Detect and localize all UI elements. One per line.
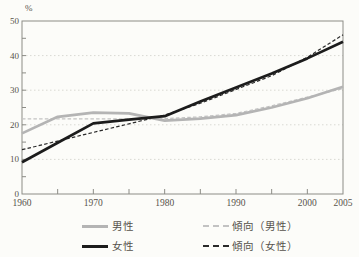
chart-legend-row-1: 男性 傾向（男性）	[0, 219, 359, 234]
chart-legend-row-2: 女性 傾向（女性）	[0, 239, 359, 254]
svg-text:30: 30	[10, 85, 20, 95]
legend-label-female: 女性	[112, 239, 134, 254]
svg-text:%: %	[25, 3, 33, 13]
svg-text:1970: 1970	[84, 198, 103, 208]
svg-text:20: 20	[10, 120, 20, 130]
svg-text:50: 50	[10, 16, 20, 26]
legend-label-trend-male: 傾向（男性）	[232, 219, 298, 234]
svg-text:1980: 1980	[155, 198, 174, 208]
svg-text:2005: 2005	[334, 198, 353, 208]
chart-figure: 01020304050196019701980199020002005% 男性 …	[0, 0, 359, 257]
legend-swatch-trend-male-line	[203, 225, 229, 227]
legend-label-trend-female: 傾向（女性）	[232, 239, 298, 254]
svg-text:10: 10	[10, 154, 20, 164]
legend-swatch-male-line	[82, 225, 108, 228]
legend-label-male: 男性	[112, 219, 134, 234]
legend-swatch-female-line	[82, 245, 108, 248]
svg-text:1960: 1960	[13, 198, 32, 208]
legend-swatch-trend-female-line	[203, 245, 229, 247]
svg-text:40: 40	[10, 51, 20, 61]
line-chart: 01020304050196019701980199020002005%	[0, 0, 359, 214]
svg-text:2000: 2000	[298, 198, 317, 208]
svg-text:1990: 1990	[227, 198, 246, 208]
